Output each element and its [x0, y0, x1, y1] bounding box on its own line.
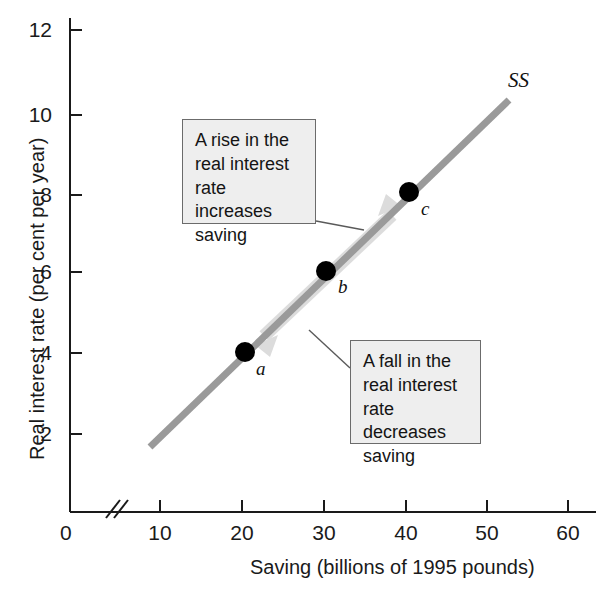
axis-break-icon: [106, 500, 128, 518]
callout-rise-line-2: real interest: [195, 153, 304, 177]
y-tick-label-12: 12: [10, 18, 52, 42]
callout-rise-line-3: rate increases: [195, 177, 304, 225]
point-label-b: b: [338, 276, 348, 298]
point-a: [235, 342, 255, 362]
x-tick-label-40: 40: [383, 521, 429, 545]
x-tick-label-60: 60: [545, 521, 591, 545]
callout-fall-line-3: rate decreases: [363, 398, 469, 446]
y-tick-label-10: 10: [10, 103, 52, 127]
y-axis-title: Real interest rate (per cent per year): [26, 138, 49, 460]
x-tick-label-50: 50: [464, 521, 510, 545]
point-label-a: a: [256, 358, 266, 380]
callout-fall-line-1: A fall in the: [363, 350, 469, 374]
x-axis: [70, 500, 596, 512]
callout-rise-box: A rise in the real interest rate increas…: [182, 119, 316, 224]
x-tick-label-20: 20: [219, 521, 265, 545]
callout-rise-line-4: saving: [195, 224, 304, 248]
callout-fall-line-2: real interest: [363, 374, 469, 398]
x-axis-title: Saving (billions of 1995 pounds): [250, 556, 535, 579]
y-axis: [70, 18, 82, 512]
figure-container: 12 10 8 6 4 2 0 10 20 30 40 50 60 Real i…: [0, 0, 604, 595]
curve-label-ss: SS: [508, 68, 529, 93]
callout-fall-box: A fall in the real interest rate decreas…: [350, 340, 481, 444]
x-tick-label-10: 10: [137, 521, 183, 545]
point-label-c: c: [421, 198, 429, 220]
point-b: [316, 261, 336, 281]
x-tick-label-30: 30: [301, 521, 347, 545]
callout-rise-line-1: A rise in the: [195, 129, 304, 153]
origin-label: 0: [60, 521, 72, 545]
point-c: [399, 182, 419, 202]
callout-fall-line-4: saving: [363, 445, 469, 469]
